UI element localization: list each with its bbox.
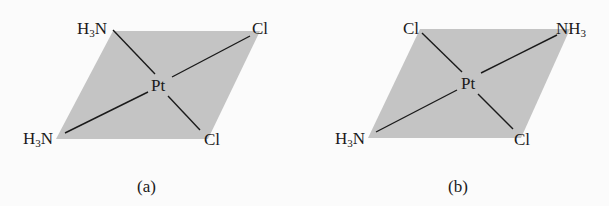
caption-text: (b) [448,177,468,196]
ligand-text: N [41,129,53,148]
ligand-b-bottom-left: H3N [335,130,365,147]
ligand-text: Cl [403,19,419,38]
ligand-text: H [335,129,347,148]
center-atom-label: Pt [461,74,475,93]
ligand-b-top-left: Cl [403,20,419,37]
ligand-text: NH [556,19,581,38]
ligand-text: H [77,19,89,38]
ligand-text: Cl [204,130,220,149]
ligand-text: Cl [514,130,530,149]
caption-text: (a) [137,177,156,196]
ligand-subscript: 3 [581,27,587,39]
ligand-text: Cl [252,19,268,38]
center-atom-a: Pt [151,77,165,94]
square-planar-diagrams: H3N Cl Pt H3N Cl (a) Cl NH3 Pt H3N Cl (b… [0,0,609,206]
ligand-text: N [353,129,365,148]
ligand-b-top-right: NH3 [556,20,586,37]
ligand-a-top-right: Cl [252,20,268,37]
ligand-b-bottom-right: Cl [514,131,530,148]
center-atom-b: Pt [461,75,475,92]
ligand-a-bottom-right: Cl [204,131,220,148]
caption-a: (a) [137,178,156,195]
ligand-a-bottom-left: H3N [23,130,53,147]
ligand-text: H [23,129,35,148]
caption-b: (b) [448,178,468,195]
ligand-text: N [95,19,107,38]
center-atom-label: Pt [151,76,165,95]
ligand-a-top-left: H3N [77,20,107,37]
